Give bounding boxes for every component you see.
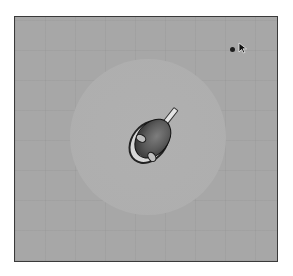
enemy-dot-icon[interactable] [230,47,235,52]
game-viewport[interactable] [14,16,278,262]
mouse-cursor-icon [238,39,248,51]
